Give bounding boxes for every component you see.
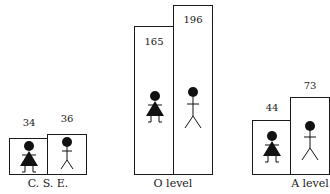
male-figure-icon xyxy=(182,86,204,132)
value-o-boys: 196 xyxy=(173,14,213,25)
category-label-o: O level xyxy=(123,177,223,190)
male-figure-icon xyxy=(299,120,321,164)
female-figure-icon xyxy=(17,140,41,174)
female-figure-icon xyxy=(143,90,167,124)
male-figure-icon xyxy=(56,136,78,172)
value-a-girls: 44 xyxy=(252,102,292,113)
category-label-cse: C. S. E. xyxy=(0,177,98,190)
value-o-girls: 165 xyxy=(134,36,174,47)
value-cse-boys: 36 xyxy=(47,113,87,124)
value-cse-girls: 34 xyxy=(9,117,49,128)
value-a-boys: 73 xyxy=(290,80,330,91)
category-label-a: A level xyxy=(260,177,330,190)
female-figure-icon xyxy=(260,130,284,164)
